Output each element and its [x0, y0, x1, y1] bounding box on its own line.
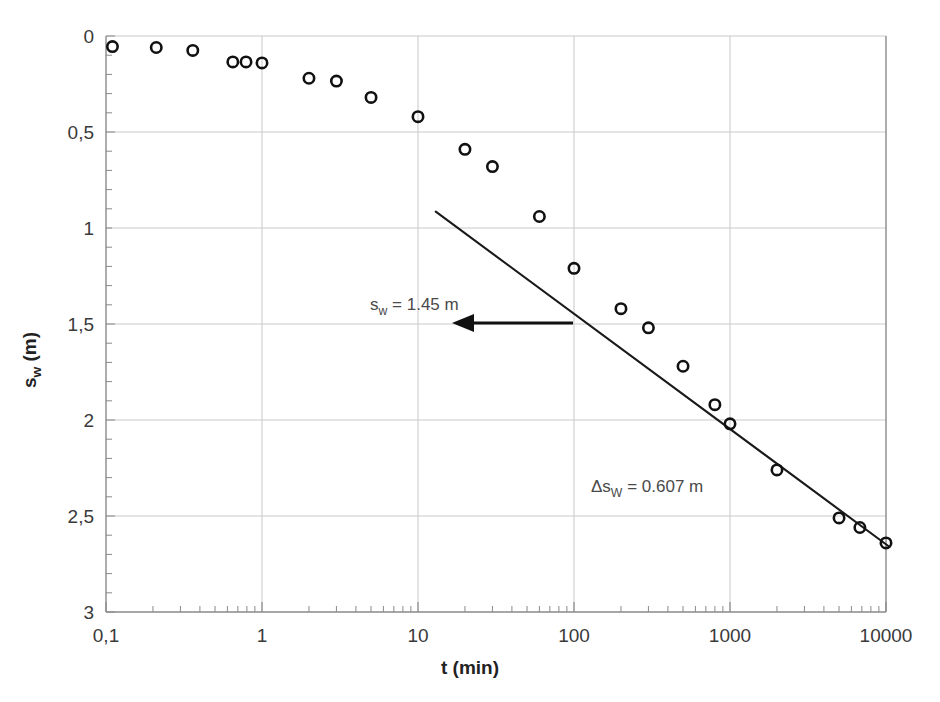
y-tick-label: 1: [83, 218, 94, 239]
x-tick-label: 10000: [860, 625, 913, 646]
chart-page: sw = 1.45 mΔsW = 0.607 m0,11101001000100…: [0, 0, 940, 702]
y-tick-label: 0: [83, 26, 94, 47]
x-tick-label: 1000: [709, 625, 751, 646]
x-tick-label: 1: [257, 625, 268, 646]
x-tick-label: 10: [407, 625, 428, 646]
y-tick-label: 2: [83, 410, 94, 431]
y-tick-label: 1,5: [68, 314, 94, 335]
y-tick-label: 3: [83, 602, 94, 623]
y-tick-label: 2,5: [68, 506, 94, 527]
drawdown-vs-time-chart: sw = 1.45 mΔsW = 0.607 m0,11101001000100…: [0, 0, 940, 702]
y-axis-title: sw (m): [19, 332, 44, 388]
x-tick-label: 0,1: [93, 625, 119, 646]
x-tick-label: 100: [558, 625, 590, 646]
x-axis-title: t (min): [441, 657, 499, 678]
y-axis-title-text: sw (m): [19, 332, 44, 388]
y-tick-label: 0,5: [68, 122, 94, 143]
